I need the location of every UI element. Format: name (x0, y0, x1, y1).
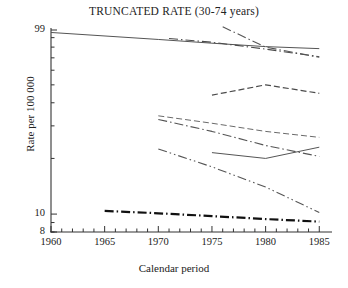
x-tick-label-1965: 1965 (85, 236, 125, 247)
series-line-8 (158, 149, 319, 213)
y-tick-label-8: 8 (21, 225, 45, 236)
y-tick-label-99: 99 (21, 23, 45, 34)
y-tick-label-10: 10 (21, 207, 45, 218)
series-line-3 (223, 27, 320, 57)
chart-figure: TRUNCATED RATE (30-74 years) Rate per 10… (0, 0, 348, 288)
x-tick-label-1970: 1970 (138, 236, 178, 247)
data-series-group (51, 27, 319, 222)
series-line-5 (158, 116, 319, 138)
x-tick-label-1960: 1960 (31, 236, 71, 247)
axis-ticks (51, 30, 319, 232)
series-line-1 (51, 32, 319, 48)
series-line-9 (105, 211, 320, 222)
x-tick-label-1985: 1985 (299, 236, 339, 247)
x-tick-label-1980: 1980 (246, 236, 286, 247)
series-line-4 (212, 85, 319, 95)
series-line-6 (158, 119, 319, 156)
axis-lines (50, 28, 332, 232)
x-tick-label-1975: 1975 (192, 236, 232, 247)
